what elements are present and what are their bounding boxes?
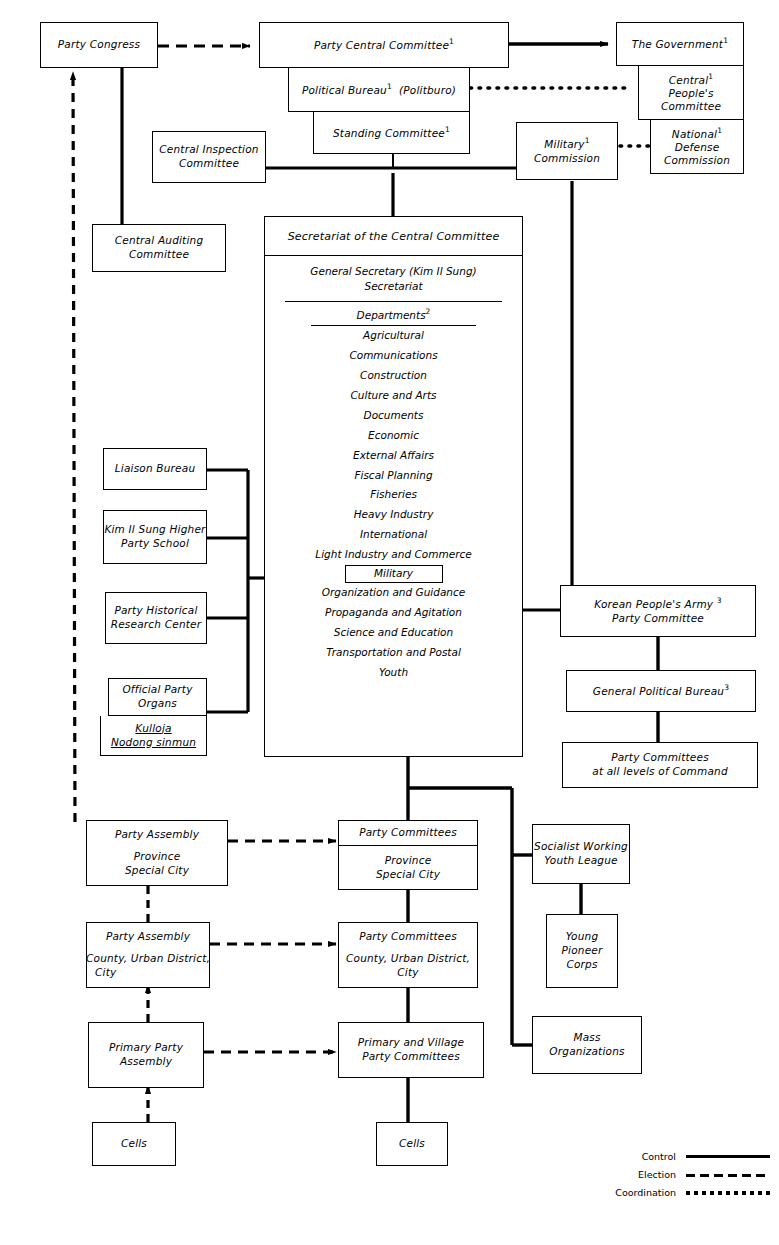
- party-congress-label: Party Congress: [58, 38, 140, 52]
- department-item: Economic: [265, 426, 522, 446]
- box-korean-peoples-army-party-committee[interactable]: Korean People's Army 3 Party Committee: [560, 585, 756, 637]
- box-party-assembly-county[interactable]: Party Assembly County, Urban District, C…: [86, 922, 210, 988]
- military-commission-line-2: Commission: [534, 152, 600, 166]
- party-assembly-province-line-3: Special City: [125, 864, 189, 878]
- swyl-line-1: Socialist Working: [534, 840, 628, 854]
- legend: Control Election Coordination: [596, 1148, 771, 1202]
- party-committees-province-line-2: Special City: [376, 868, 440, 882]
- cells-right-label: Cells: [399, 1137, 425, 1151]
- box-national-defense-commission[interactable]: National1 Defense Commission: [650, 120, 744, 174]
- box-central-peoples-committee[interactable]: Central1 People's Committee: [638, 66, 744, 120]
- department-item: Documents: [265, 406, 522, 426]
- secretariat-general-secretary: General Secretary (Kim Il Sung) Secretar…: [265, 256, 522, 294]
- box-kim-il-sung-higher-party-school[interactable]: Kim Il Sung Higher Party School: [103, 510, 207, 564]
- party-committees-all-levels-line-1: Party Committees: [611, 751, 709, 765]
- central-auditing-committee-line-2: Committee: [129, 248, 189, 262]
- department-military-boxed[interactable]: Military: [345, 565, 443, 583]
- footnote-1: 1: [449, 37, 454, 46]
- box-party-central-committee[interactable]: Party Central Committee1: [259, 22, 509, 68]
- box-primary-village-party-committees[interactable]: Primary and Village Party Committees: [338, 1022, 484, 1078]
- box-mass-organizations[interactable]: Mass Organizations: [532, 1016, 642, 1074]
- legend-item-control: Control: [596, 1148, 771, 1166]
- box-party-committees-county[interactable]: Party Committees County, Urban District,…: [338, 922, 478, 988]
- general-political-bureau-label: General Political Bureau3: [593, 683, 729, 698]
- department-item: Heavy Industry: [265, 505, 522, 525]
- box-standing-committee[interactable]: Standing Committee1: [313, 112, 470, 154]
- footnote-3: 3: [717, 596, 722, 605]
- central-peoples-committee-line-3: Committee: [661, 100, 721, 113]
- box-party-historical-research-center[interactable]: Party Historical Research Center: [105, 592, 207, 644]
- footnote-2: 2: [426, 307, 431, 316]
- party-committees-county-line-2: City: [397, 966, 418, 980]
- cells-left-label: Cells: [121, 1137, 147, 1151]
- box-central-auditing-committee[interactable]: Central Auditing Committee: [92, 224, 226, 272]
- general-secretary-line: General Secretary (Kim Il Sung): [265, 264, 522, 279]
- party-committees-all-levels-line-2: at all levels of Command: [592, 765, 728, 779]
- panel-secretariat: Secretariat of the Central Committee Gen…: [264, 216, 523, 757]
- kim-il-sung-higher-party-school-line-2: Party School: [121, 537, 189, 551]
- party-central-committee-label: Party Central Committee1: [314, 37, 454, 52]
- military-commission-line-1: Military1: [544, 136, 589, 151]
- mass-organizations-line-2: Organizations: [549, 1045, 624, 1059]
- official-party-organs-line-2: Organs: [138, 697, 177, 711]
- national-defense-commission-line-3: Commission: [664, 154, 730, 167]
- department-item: Propaganda and Agitation: [265, 603, 522, 623]
- publication-kulloja: Kulloja: [135, 722, 171, 736]
- department-item: Construction: [265, 366, 522, 386]
- departments-list: AgriculturalCommunicationsConstructionCu…: [265, 326, 522, 683]
- box-military-commission[interactable]: Military1 Commission: [516, 122, 618, 180]
- box-primary-party-assembly[interactable]: Primary Party Assembly: [88, 1022, 204, 1088]
- kim-il-sung-higher-party-school-line-1: Kim Il Sung Higher: [104, 523, 205, 537]
- secretariat-title: Secretariat of the Central Committee: [265, 217, 522, 256]
- political-bureau-label: Political Bureau1 (Politburo): [302, 82, 456, 97]
- young-pioneer-corps-line-3: Corps: [566, 958, 597, 972]
- box-political-bureau[interactable]: Political Bureau1 (Politburo): [288, 68, 470, 112]
- box-young-pioneer-corps[interactable]: Young Pioneer Corps: [546, 914, 618, 988]
- box-liaison-bureau[interactable]: Liaison Bureau: [103, 448, 207, 490]
- legend-line-dotted: [686, 1188, 770, 1198]
- swyl-line-2: Youth League: [544, 854, 617, 868]
- national-defense-commission-line-2: Defense: [675, 141, 720, 154]
- box-cells-right[interactable]: Cells: [376, 1122, 448, 1166]
- kpa-party-committee-line-2: Party Committee: [612, 612, 704, 626]
- party-committees-county-header-label: Party Committees: [359, 930, 457, 944]
- party-assembly-county-line-3: City: [95, 966, 116, 980]
- young-pioneer-corps-line-1: Young: [566, 930, 599, 944]
- party-committees-province-header-label: Party Committees: [359, 826, 457, 840]
- box-general-political-bureau[interactable]: General Political Bureau3: [566, 670, 756, 712]
- department-item: Light Industry and Commerce: [265, 545, 522, 565]
- legend-label-election: Election: [596, 1170, 686, 1180]
- the-government-label: The Government1: [632, 36, 728, 51]
- box-central-inspection-committee[interactable]: Central Inspection Committee: [152, 131, 266, 183]
- box-party-committees-province-header[interactable]: Party Committees: [338, 820, 478, 846]
- central-inspection-committee-line-1: Central Inspection: [159, 143, 258, 157]
- party-committees-province-line-1: Province: [385, 854, 432, 868]
- box-the-government[interactable]: The Government1: [616, 22, 744, 66]
- kpa-party-committee-line-1: Korean People's Army 3: [594, 596, 722, 611]
- department-item: Culture and Arts: [265, 386, 522, 406]
- legend-label-coordination: Coordination: [596, 1188, 686, 1198]
- department-item: Communications: [265, 346, 522, 366]
- standing-committee-label: Standing Committee1: [333, 125, 450, 140]
- department-item: Fiscal Planning: [265, 466, 522, 486]
- primary-party-assembly-line-2: Assembly: [120, 1055, 172, 1069]
- box-party-committees-all-levels[interactable]: Party Committees at all levels of Comman…: [562, 742, 758, 788]
- party-assembly-county-line-2: County, Urban District,: [86, 952, 210, 966]
- mass-organizations-line-1: Mass: [573, 1031, 600, 1045]
- central-peoples-committee-line-1: Central1: [669, 72, 714, 87]
- box-party-committees-province-body[interactable]: Province Special City: [338, 846, 478, 890]
- central-inspection-committee-line-2: Committee: [179, 157, 239, 171]
- legend-item-election: Election: [596, 1166, 771, 1184]
- department-item: Science and Education: [265, 623, 522, 643]
- legend-line-solid: [686, 1152, 770, 1162]
- box-socialist-working-youth-league[interactable]: Socialist Working Youth League: [532, 824, 630, 884]
- legend-line-dashed: [686, 1170, 770, 1180]
- box-party-congress[interactable]: Party Congress: [40, 22, 158, 68]
- box-official-party-organs[interactable]: Official Party Organs: [108, 678, 207, 716]
- box-official-party-organs-publications[interactable]: Kulloja Nodong sinmun: [100, 716, 207, 756]
- central-peoples-committee-line-2: People's: [668, 87, 713, 100]
- department-item: Agricultural: [265, 326, 522, 346]
- box-party-assembly-province[interactable]: Party Assembly Province Special City: [86, 820, 228, 886]
- departments-header: Departments2: [265, 302, 522, 321]
- box-cells-left[interactable]: Cells: [92, 1122, 176, 1166]
